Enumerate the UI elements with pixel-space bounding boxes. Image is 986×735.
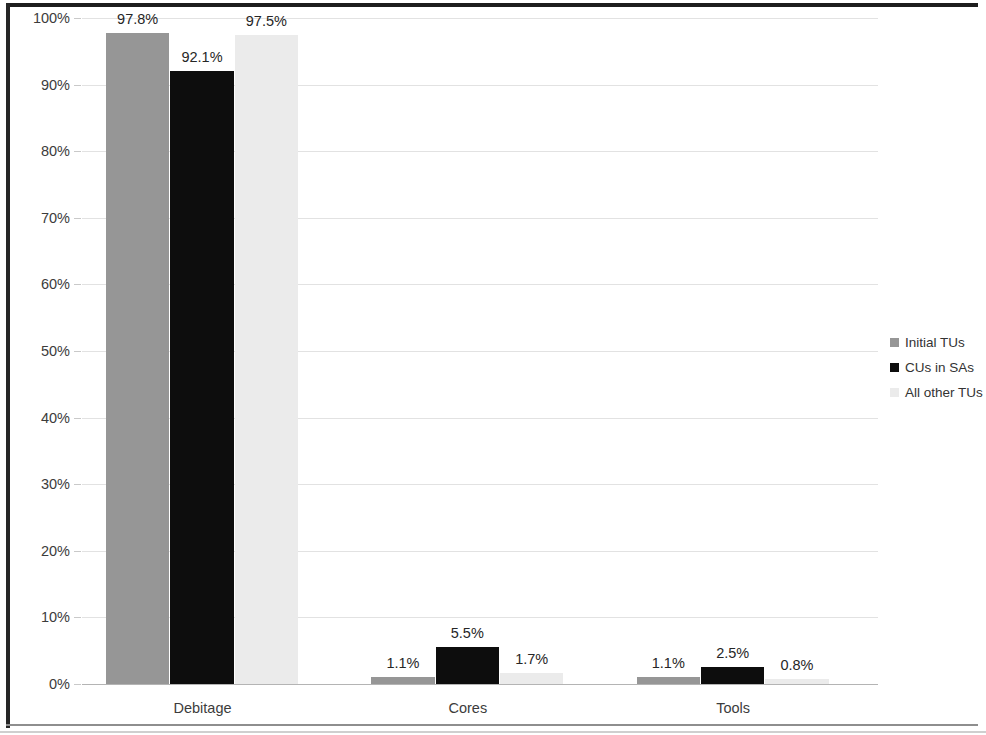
legend-item: All other TUs — [890, 380, 982, 405]
legend-label: CUs in SAs — [905, 361, 974, 375]
bar — [500, 673, 563, 684]
legend-item: Initial TUs — [890, 330, 982, 355]
x-axis-label: Tools — [637, 700, 830, 716]
y-axis-tick-label: 50% — [41, 343, 70, 359]
y-axis-tick-mark — [74, 551, 81, 552]
x-axis-baseline — [82, 684, 878, 685]
y-axis-tick-label: 10% — [41, 609, 70, 625]
bar — [436, 647, 499, 684]
legend-swatch-icon — [890, 388, 899, 397]
legend-label: All other TUs — [905, 386, 983, 400]
y-axis-tick-label: 40% — [41, 410, 70, 426]
chart-legend: Initial TUsCUs in SAsAll other TUs — [890, 330, 982, 405]
y-axis-tick-mark — [74, 684, 81, 685]
legend-item: CUs in SAs — [890, 355, 982, 380]
y-axis-tick-label: 30% — [41, 476, 70, 492]
bar-value-label: 1.7% — [500, 652, 563, 667]
y-axis-tick-mark — [74, 284, 81, 285]
bar-value-label: 1.1% — [637, 656, 700, 671]
y-axis-tick-label: 60% — [41, 276, 70, 292]
bar-value-label: 2.5% — [701, 646, 764, 661]
page-border-bottom-secondary — [0, 731, 986, 733]
y-axis-tick-label: 80% — [41, 143, 70, 159]
bar-value-label: 5.5% — [436, 626, 499, 641]
y-axis-tick-label: 100% — [33, 10, 70, 26]
gridline — [82, 18, 878, 19]
legend-label: Initial TUs — [905, 336, 965, 350]
y-axis-tick-mark — [74, 18, 81, 19]
bar-value-label: 1.1% — [371, 656, 434, 671]
bar — [106, 33, 169, 684]
page-border-bottom — [6, 724, 978, 726]
bar — [235, 35, 298, 684]
y-axis-tick-mark — [74, 617, 81, 618]
y-axis-tick-mark — [74, 151, 81, 152]
legend-swatch-icon — [890, 338, 899, 347]
page-border-top — [6, 3, 978, 7]
legend-swatch-icon — [890, 363, 899, 372]
bar-value-label: 92.1% — [170, 50, 233, 65]
bar — [637, 677, 700, 684]
y-axis-tick-mark — [74, 218, 81, 219]
bar — [765, 679, 828, 684]
bar — [701, 667, 764, 684]
y-axis-tick-mark — [74, 85, 81, 86]
y-axis-tick-label: 90% — [41, 77, 70, 93]
plot-area: 97.8%92.1%97.5%1.1%5.5%1.7%1.1%2.5%0.8% — [82, 18, 878, 684]
y-axis-tick-label: 20% — [41, 543, 70, 559]
y-axis-tick-mark — [74, 351, 81, 352]
x-axis-label: Debitage — [106, 700, 299, 716]
bar — [371, 677, 434, 684]
x-axis-label: Cores — [371, 700, 564, 716]
bar-value-label: 0.8% — [765, 658, 828, 673]
y-axis: 0%10%20%30%40%50%60%70%80%90%100% — [8, 18, 74, 684]
y-axis-tick-label: 70% — [41, 210, 70, 226]
chart-page: 0%10%20%30%40%50%60%70%80%90%100% 97.8%9… — [0, 0, 986, 735]
bar-value-label: 97.5% — [235, 14, 298, 29]
bar-value-label: 97.8% — [106, 12, 169, 27]
bar — [170, 71, 233, 684]
y-axis-tick-mark — [74, 418, 81, 419]
y-axis-tick-label: 0% — [49, 676, 70, 692]
y-axis-tick-mark — [74, 484, 81, 485]
